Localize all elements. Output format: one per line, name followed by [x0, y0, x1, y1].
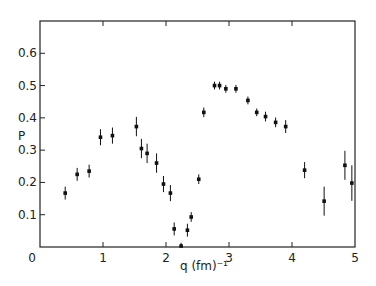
data-point — [111, 128, 115, 144]
data-point — [274, 118, 278, 128]
y-tick-label: 0.1 — [18, 208, 37, 222]
data-point — [99, 129, 103, 145]
data-point — [145, 144, 149, 163]
data-point — [155, 153, 159, 172]
data-point — [246, 97, 250, 105]
data-point — [255, 108, 259, 116]
data-point — [162, 176, 166, 192]
plot-frame — [40, 21, 355, 247]
x-tick-label: 1 — [99, 251, 107, 265]
data-point — [169, 185, 173, 201]
x-axis-title: q (fm)⁻¹ — [180, 259, 228, 273]
y-tick-label: 0.3 — [18, 143, 37, 157]
data-point — [63, 187, 67, 200]
y-tick-label: 0.5 — [18, 79, 37, 93]
data-point — [350, 165, 354, 201]
data-point — [197, 174, 201, 184]
data-point — [218, 82, 222, 90]
data-point — [322, 187, 326, 216]
data-point — [234, 85, 238, 93]
data-point — [135, 117, 139, 136]
data-point — [186, 224, 190, 237]
data-point — [284, 120, 288, 133]
x-tick-label: 2 — [162, 251, 170, 265]
data-point — [343, 151, 347, 180]
data-point — [75, 168, 79, 181]
y-axis-title: P — [18, 129, 25, 143]
data-point — [87, 165, 91, 178]
y-tick-label: 0.4 — [18, 111, 37, 125]
x-tick-label: 4 — [288, 251, 296, 265]
x-tick-label: 0 — [28, 251, 36, 265]
data-point — [264, 112, 268, 122]
data-point — [189, 212, 193, 222]
y-tick-label: 0.2 — [18, 175, 37, 189]
data-point — [179, 243, 183, 248]
data-point — [213, 82, 217, 90]
scatter-chart: 012345 0.10.20.30.40.50.6 P q (fm)⁻¹ — [0, 0, 376, 286]
x-axis: 012345 — [28, 21, 359, 265]
data-point — [202, 108, 206, 118]
data-point — [303, 162, 307, 178]
data-point — [224, 85, 228, 93]
data-point — [140, 139, 144, 158]
data-point — [172, 222, 176, 235]
x-tick-label: 5 — [351, 251, 359, 265]
data-points — [63, 82, 353, 248]
y-tick-label: 0.6 — [18, 46, 37, 60]
